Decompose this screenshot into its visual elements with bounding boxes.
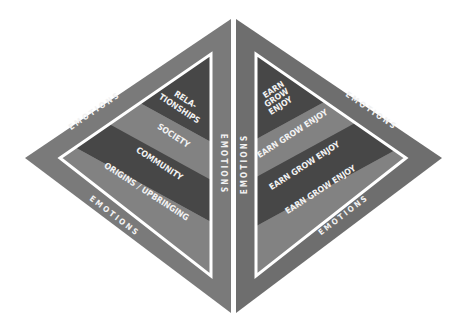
- emotions-diamond-diagram: EMOTIONS EMOTIONS EMOTIONS RELA- TIONSHI…: [0, 0, 467, 336]
- left-side-emotions: EMOTIONS: [219, 134, 228, 195]
- left-triangle: EMOTIONS EMOTIONS EMOTIONS RELA- TIONSHI…: [25, 19, 231, 313]
- right-triangle: EMOTIONS EMOTIONS EMOTIONS EARN GROW ENJ…: [236, 19, 442, 313]
- right-side-emotions: EMOTIONS: [240, 134, 249, 195]
